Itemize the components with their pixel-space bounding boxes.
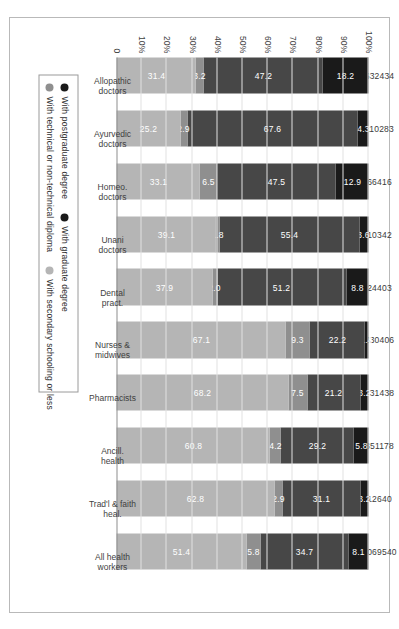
bar-segment[interactable]: 67.6 [187, 110, 357, 146]
bar-segment[interactable]: 37.9 [116, 268, 212, 304]
bar-total-label: 632434 [368, 75, 378, 105]
bar-segment-value: 51.2 [273, 282, 290, 292]
legend-item[interactable]: With technical or non-technical diploma [45, 83, 55, 252]
gridline [317, 57, 318, 569]
bar-segment[interactable]: 51.2 [217, 268, 346, 304]
legend-item[interactable]: With postgraduate degree [60, 83, 70, 199]
stacked-bar-chart: 100%90%80%70%60%50%40%30%20%10%0 6324341… [9, 17, 390, 613]
bar-segment[interactable]: 8.8 [346, 268, 368, 304]
legend-item[interactable]: With secondary schooling or less [45, 266, 55, 410]
bar-segment-value: 31.1 [312, 493, 329, 503]
y-tick-label: 80% [313, 35, 323, 53]
category-label-text: Nurses &midwives [95, 339, 130, 359]
legend-row-2: With technical or non-technical diplomaW… [42, 83, 57, 383]
y-tick-label: 50% [237, 35, 247, 53]
legend-swatch-icon [61, 83, 69, 91]
bar-segment-value: 6.5 [201, 176, 213, 186]
legend-item[interactable]: With graduate degree [60, 213, 70, 312]
gridline [216, 57, 217, 569]
bar-segment-value: 68.2 [193, 387, 210, 397]
bar-segment[interactable]: 21.2 [307, 374, 360, 410]
bar-segment[interactable]: 33.1 [116, 163, 199, 199]
category-label-text: Homeo.doctors [97, 181, 127, 201]
bar-total-label: 2069540 [368, 551, 378, 586]
y-tick-label: 90% [338, 35, 348, 53]
y-tick-label: 60% [262, 35, 272, 53]
rotated-canvas: 100%90%80%70%60%50%40%30%20%10%0 6324341… [9, 17, 390, 613]
category-label-text: Trad'l & faithheal. [88, 498, 135, 518]
bar-segment[interactable]: 2.9 [274, 480, 281, 516]
bar-segment[interactable]: 4.2 [269, 427, 280, 463]
bar-segment[interactable]: 34.7 [260, 533, 347, 569]
legend-swatch-icon [46, 83, 54, 91]
bar-segment-value: 5.8 [247, 546, 259, 556]
bar-segment-value: 47.2 [254, 70, 271, 80]
y-tick-label: 10% [136, 35, 146, 53]
gridline [140, 57, 141, 569]
bar-segment[interactable]: 31.1 [282, 480, 360, 516]
gridline [266, 57, 267, 569]
legend-row-1: With postgraduate degreeWith graduate de… [57, 83, 72, 383]
bar-segment[interactable]: 55.4 [219, 216, 359, 252]
gridline [191, 57, 192, 569]
figure-frame: 100%90%80%70%60%50%40%30%20%10%0 6324341… [9, 17, 390, 613]
category-label-text: Allopathicdoctors [94, 75, 131, 95]
bar-segment[interactable]: 5.8 [353, 427, 368, 463]
bar-segment-value: 51.4 [172, 546, 189, 556]
bar-segment[interactable]: 9.3 [285, 321, 308, 357]
gridline [165, 57, 166, 569]
bar-segment-value: 18.2 [336, 70, 353, 80]
bar-segment-value: 62.8 [186, 493, 203, 503]
bar-segment-value: 25.2 [139, 123, 156, 133]
bar-segment-value: 8.8 [351, 282, 363, 292]
y-tick-label: 70% [287, 35, 297, 53]
bar-segment[interactable]: 18.2 [322, 57, 368, 93]
category-label-text: Pharmacists [89, 392, 136, 402]
legend-label: With graduate degree [60, 226, 70, 312]
legend-swatch-icon [46, 266, 54, 274]
category-label-text: Ancill.health [100, 445, 123, 465]
plot-area: 63243418.247.23.231.41102834.367.62.925.… [116, 57, 368, 569]
bar-segment[interactable]: 60.8 [116, 427, 269, 463]
gridline [291, 57, 292, 569]
bar-segment-value: 67.1 [192, 334, 209, 344]
category-label-text: Dentalpract. [100, 287, 125, 307]
bar-segment-value: 47.5 [267, 176, 284, 186]
bar-segment[interactable]: 8.1 [348, 533, 368, 569]
category-label: All healthworkers [58, 533, 114, 569]
bar-segment[interactable]: 7.5 [288, 374, 307, 410]
y-tick-label: 40% [212, 35, 222, 53]
bar-segment[interactable]: 2.9 [180, 110, 187, 146]
bar-segment[interactable]: 6.5 [199, 163, 215, 199]
y-axis-tick-labels: 100%90%80%70%60%50%40%30%20%10%0 [90, 17, 390, 57]
y-tick-label: 100% [363, 30, 373, 53]
bar-segment[interactable]: 51.4 [116, 533, 246, 569]
bar-segment-value: 31.4 [147, 70, 164, 80]
bar-segment[interactable]: 47.2 [203, 57, 322, 93]
y-tick-label: 0 [111, 48, 121, 53]
gridline [241, 57, 242, 569]
bar-segment[interactable]: 68.2 [116, 374, 288, 410]
bar-segment-value: 33.1 [149, 176, 166, 186]
legend-label: With secondary schooling or less [45, 279, 55, 410]
bar-segment-value: 5.8 [354, 440, 366, 450]
bar-segment[interactable]: 5.8 [246, 533, 261, 569]
figure-page: 100%90%80%70%60%50%40%30%20%10%0 6324341… [0, 0, 399, 629]
y-tick-label: 30% [187, 35, 197, 53]
bar-segment-value: 12.9 [343, 176, 360, 186]
gridline [342, 57, 343, 569]
bar-segment[interactable]: 12.9 [336, 163, 369, 199]
bar-segment[interactable]: 4.3 [357, 110, 368, 146]
bar-total-label: 24403 [368, 287, 378, 312]
bar-segment-value: 8.1 [352, 546, 364, 556]
bar-total-label: 351178 [368, 445, 378, 474]
bar-segment-value: 37.9 [155, 282, 172, 292]
legend-swatch-icon [61, 213, 69, 221]
legend-label: With technical or non-technical diploma [45, 96, 55, 252]
bar-segment-value: 55.4 [280, 229, 297, 239]
y-tick-label: 20% [161, 35, 171, 53]
bar-total-label: 66416 [368, 181, 378, 206]
category-label-text: All healthworkers [95, 551, 130, 571]
category-label-text: Unanidoctors [98, 234, 126, 254]
bar-segment[interactable]: 3.2 [195, 57, 203, 93]
